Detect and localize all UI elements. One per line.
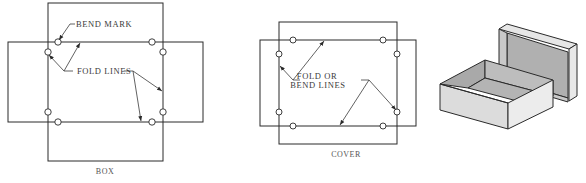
bend-mark-label: BEND MARK	[76, 19, 132, 29]
box-bend-marks	[45, 39, 166, 125]
diagram-canvas: BEND MARK FOLD LINES BOX FOLD OR BEND LI…	[0, 0, 586, 183]
isometric-box-illustration	[440, 24, 577, 129]
box-caption: BOX	[96, 167, 114, 176]
box-flat-pattern: BEND MARK FOLD LINES BOX	[8, 3, 203, 176]
cover-caption: COVER	[331, 150, 361, 159]
fold-lines-label: FOLD LINES	[77, 66, 131, 76]
bend-mark-leader	[59, 24, 75, 40]
bend-lines-label: BEND LINES	[290, 80, 345, 90]
cover-flat-pattern: FOLD OR BEND LINES COVER	[260, 22, 416, 159]
box-horizontal-panel	[8, 42, 203, 122]
fold-line-leader-1	[49, 55, 73, 71]
fold-line-leader-4	[133, 71, 141, 121]
